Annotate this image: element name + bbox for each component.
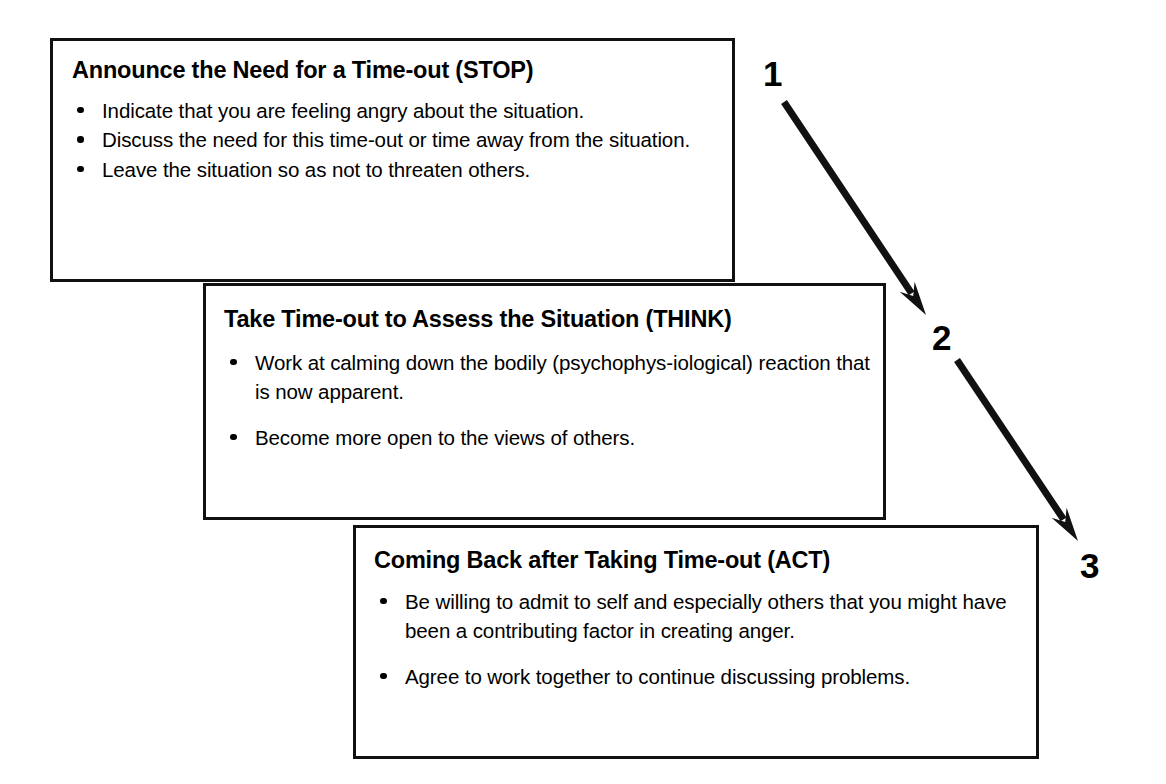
- bullet-text: Discuss the need for this time-out or ti…: [102, 128, 690, 151]
- step-box-2: Take Time-out to Assess the Situation (T…: [203, 283, 886, 520]
- arrow-step-2-to-3-icon: [957, 360, 1078, 541]
- step-box-3: Coming Back after Taking Time-out (ACT) …: [353, 525, 1039, 759]
- bullet-dot-icon: [230, 359, 237, 366]
- list-item: Become more open to the views of others.: [228, 423, 883, 453]
- list-item: Work at calming down the bodily (psychop…: [228, 348, 883, 407]
- bullet-dot-icon: [77, 136, 84, 143]
- step-box-1: Announce the Need for a Time-out (STOP) …: [50, 38, 735, 282]
- bullet-text: Indicate that you are feeling angry abou…: [102, 99, 584, 122]
- step-box-1-heading: Announce the Need for a Time-out (STOP): [72, 58, 732, 84]
- bullet-dot-icon: [77, 166, 84, 173]
- step-box-3-bullet-list: Be willing to admit to self and especial…: [378, 587, 1036, 692]
- list-item: Discuss the need for this time-out or ti…: [75, 125, 732, 155]
- bullet-text: Work at calming down the bodily (psychop…: [255, 351, 870, 404]
- bullet-dot-icon: [230, 434, 237, 441]
- step-box-1-bullet-list: Indicate that you are feeling angry abou…: [75, 96, 732, 185]
- bullet-dot-icon: [77, 107, 84, 114]
- bullet-text: Be willing to admit to self and especial…: [405, 590, 1007, 643]
- step-box-2-heading: Take Time-out to Assess the Situation (T…: [224, 307, 883, 333]
- list-item: Leave the situation so as not to threate…: [75, 155, 732, 185]
- bullet-dot-icon: [380, 598, 387, 605]
- step-number-2: 2: [932, 320, 951, 355]
- step-number-3: 3: [1080, 548, 1099, 583]
- list-item: Be willing to admit to self and especial…: [378, 587, 1036, 646]
- diagram-canvas: Announce the Need for a Time-out (STOP) …: [0, 0, 1166, 784]
- bullet-text: Agree to work together to continue discu…: [405, 665, 910, 688]
- step-box-3-heading: Coming Back after Taking Time-out (ACT): [374, 548, 1036, 574]
- bullet-text: Leave the situation so as not to threate…: [102, 158, 530, 181]
- bullet-text: Become more open to the views of others.: [255, 426, 635, 449]
- step-number-1: 1: [763, 56, 782, 91]
- bullet-dot-icon: [380, 673, 387, 680]
- list-item: Agree to work together to continue discu…: [378, 662, 1036, 692]
- list-item: Indicate that you are feeling angry abou…: [75, 96, 732, 126]
- step-box-2-bullet-list: Work at calming down the bodily (psychop…: [228, 348, 883, 453]
